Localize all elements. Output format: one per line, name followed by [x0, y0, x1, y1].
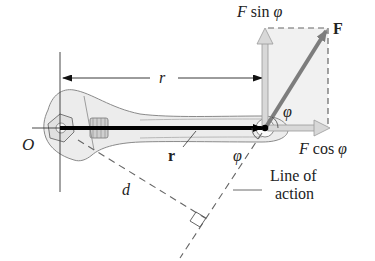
moment-arm-label: d	[122, 182, 130, 198]
f-sin-phi: φ	[273, 3, 282, 20]
r-vector-label: r	[168, 148, 175, 164]
f-cos-label: F cos φ	[299, 141, 347, 157]
torque-diagram: O r r d F F sin φ F cos φ φ φ Line of ac…	[0, 0, 375, 261]
origin-label: O	[22, 136, 34, 153]
f-cos-phi: φ	[338, 140, 347, 157]
f-cos-text: cos	[309, 140, 338, 157]
line-of-action	[180, 133, 262, 258]
f-sin-text: sin	[247, 3, 274, 20]
wrench	[44, 90, 288, 161]
diagram-canvas	[0, 0, 375, 261]
r-distance-label: r	[159, 70, 165, 86]
angle-label-bottom: φ	[233, 148, 242, 164]
f-sin-symbol: F	[237, 3, 247, 20]
line-of-action-label-1: Line of	[270, 168, 317, 184]
application-point	[262, 125, 268, 131]
force-label: F	[333, 21, 343, 37]
line-of-action-label-2: action	[275, 186, 314, 202]
f-cos-symbol: F	[299, 140, 309, 157]
f-sin-label: F sin φ	[237, 4, 282, 20]
right-angle-marker	[190, 212, 206, 227]
angle-label-top: φ	[283, 104, 292, 120]
